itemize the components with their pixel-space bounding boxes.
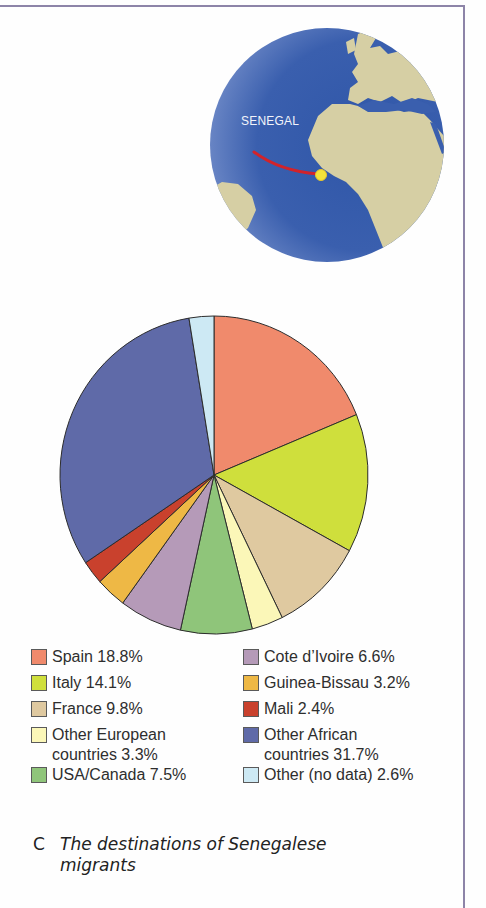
legend-swatch [31,767,47,783]
legend-swatch [243,675,259,691]
frame-top-border [0,5,465,7]
legend-swatch [243,767,259,783]
legend-item-spain: Spain 18.8% [31,647,246,667]
legend-item-other-no-data: Other (no data) 2.6% [243,765,458,785]
legend-swatch [31,649,47,665]
legend-swatch [243,649,259,665]
legend-swatch [31,701,47,717]
pie-chart-svg [0,300,430,650]
legend-column-right: Cote d’Ivoire 6.6% Guinea-Bissau 3.2% Ma… [243,647,458,791]
globe-map [208,24,448,268]
caption-text: The destinations of Senegalese migrants [60,834,360,876]
globe-icon [208,24,448,268]
legend-item-cote-divoire: Cote d’Ivoire 6.6% [243,647,458,667]
legend-swatch [31,727,47,743]
legend-item-other-european: Other European countries 3.3% [31,725,246,765]
legend-swatch [243,727,259,743]
legend-item-france: France 9.8% [31,699,246,719]
caption-letter: C [33,834,45,855]
legend-swatch [31,675,47,691]
legend-item-guinea-bissau: Guinea-Bissau 3.2% [243,673,458,693]
legend-item-mali: Mali 2.4% [243,699,458,719]
legend-swatch [243,701,259,717]
legend-item-italy: Italy 14.1% [31,673,246,693]
legend-item-other-african: Other African countries 31.7% [243,725,458,765]
legend-column-left: Spain 18.8% Italy 14.1% France 9.8% Othe… [31,647,246,791]
globe-country-label: SENEGAL [241,114,299,128]
frame-right-border [463,5,465,908]
pie-chart [0,300,430,650]
legend-item-usa-canada: USA/Canada 7.5% [31,765,246,785]
